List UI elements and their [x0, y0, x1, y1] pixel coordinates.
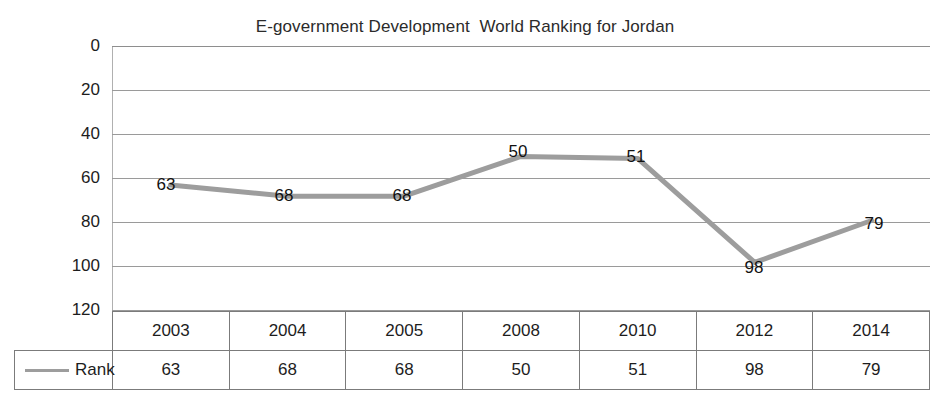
point-label-2008: 50: [509, 142, 528, 162]
table-row-categories: 2003 2004 2005 2008 2010 2012 2014: [15, 312, 930, 351]
value-cell-2014: 79: [813, 351, 930, 390]
chart-title: E-government Development World Ranking f…: [0, 17, 930, 37]
y-tick-100: 100: [0, 256, 100, 276]
legend-line-icon: [25, 369, 69, 372]
y-tick-60: 60: [0, 168, 100, 188]
value-cell-2010: 51: [579, 351, 696, 390]
value-cell-2008: 50: [463, 351, 580, 390]
plot-area: 63 68 68 50 51 98 79: [112, 46, 930, 311]
value-cell-2005: 68: [346, 351, 463, 390]
table-corner-cell: [15, 312, 113, 351]
y-tick-0: 0: [0, 36, 100, 56]
value-cell-2003: 63: [113, 351, 230, 390]
legend-label-rank: Rank: [75, 360, 115, 380]
y-tick-40: 40: [0, 124, 100, 144]
point-label-2003: 63: [157, 175, 176, 195]
point-label-2014: 79: [865, 214, 884, 234]
point-label-2012: 98: [745, 258, 764, 278]
category-cell-2010: 2010: [579, 312, 696, 351]
legend-cell-rank: Rank: [15, 351, 113, 390]
category-cell-2012: 2012: [696, 312, 813, 351]
point-label-2010: 51: [627, 147, 646, 167]
y-tick-80: 80: [0, 212, 100, 232]
value-cell-2004: 68: [229, 351, 346, 390]
chart-data-table: 2003 2004 2005 2008 2010 2012 2014 Rank …: [14, 311, 930, 390]
series-line-rank: [112, 46, 930, 311]
table-row-rank: Rank 63 68 68 50 51 98 79: [15, 351, 930, 390]
point-label-2004: 68: [275, 186, 294, 206]
value-cell-2012: 98: [696, 351, 813, 390]
category-cell-2008: 2008: [463, 312, 580, 351]
y-tick-20: 20: [0, 80, 100, 100]
category-cell-2005: 2005: [346, 312, 463, 351]
category-cell-2003: 2003: [113, 312, 230, 351]
category-cell-2014: 2014: [813, 312, 930, 351]
point-label-2005: 68: [393, 186, 412, 206]
chart-page: E-government Development World Ranking f…: [0, 0, 945, 411]
category-cell-2004: 2004: [229, 312, 346, 351]
